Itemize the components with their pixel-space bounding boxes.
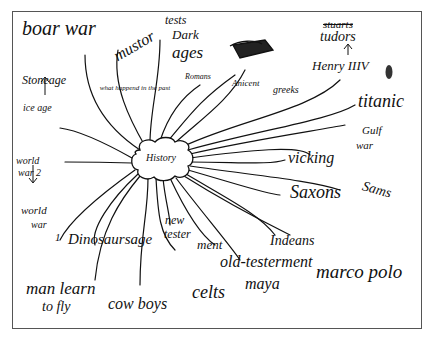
label-vicking: vicking — [288, 150, 334, 166]
label-dark: Dark — [172, 28, 199, 41]
label-stoneage: Stoneage — [22, 74, 66, 86]
label-saxons: Saxons — [290, 183, 341, 201]
label-tudors: tudors — [320, 30, 356, 44]
label-gulf: Gulf — [362, 125, 382, 136]
label-ww1-one: 1 — [55, 232, 61, 243]
central-topic: History — [132, 141, 190, 179]
label-ment: ment — [197, 238, 222, 251]
label-to-fly: to fly — [42, 300, 70, 314]
label-ww1-war: war — [31, 220, 47, 230]
label-ice-age: ice age — [23, 103, 52, 113]
label-titanic: titanic — [358, 92, 404, 110]
label-tests: tests — [165, 14, 186, 26]
label-subtitle: what happend in the past — [90, 84, 180, 93]
label-old-testament: old-testerment — [220, 254, 312, 270]
scribble-oval — [386, 65, 393, 79]
label-ww2-war: war 2 — [18, 168, 41, 178]
label-gulf-war: war — [356, 140, 373, 151]
label-greeks: greeks — [273, 85, 299, 95]
label-ww2-world: world — [16, 156, 39, 166]
label-ancient: Anicent — [232, 79, 260, 88]
label-indians: Indeans — [270, 234, 314, 248]
label-cowboys: cow boys — [108, 296, 167, 312]
scribble-drawing — [230, 40, 273, 58]
label-dinosaur-age: Dinosaursage — [68, 232, 152, 247]
label-romans: Romans — [185, 73, 211, 81]
label-marco-polo: marco polo — [316, 262, 402, 281]
label-ages: ages — [172, 44, 203, 61]
central-topic-label: History — [132, 152, 190, 163]
label-celts: celts — [192, 283, 225, 301]
label-maya: maya — [245, 276, 280, 292]
label-ww1-world: world — [21, 205, 47, 216]
label-new: new — [165, 214, 184, 226]
label-henry: Henry IIIV — [312, 59, 369, 72]
label-tester: tester — [164, 228, 191, 240]
label-boar-war: boar war — [22, 18, 96, 38]
label-man-learn: man learn — [26, 280, 95, 297]
